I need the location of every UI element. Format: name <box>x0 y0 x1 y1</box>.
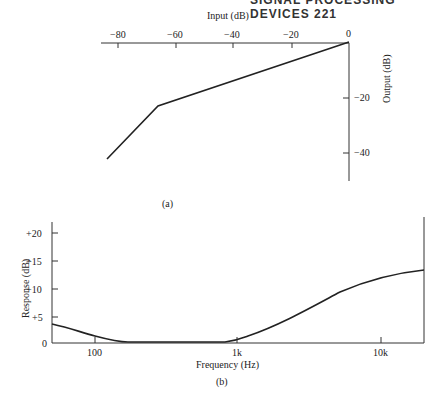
chart-a <box>101 42 349 181</box>
chart-a-curve <box>107 42 349 159</box>
chart-b-y-tick-label: 0 <box>42 338 47 349</box>
chart-b-x-tick-label: 1k <box>232 347 242 358</box>
chart-a-x-title: Input (dB) <box>207 10 249 21</box>
chart-b <box>52 217 424 343</box>
chart-b-curve <box>52 270 424 342</box>
chart-a-x-tick-label: −80 <box>110 29 126 40</box>
chart-b-x-tick-label: 10k <box>373 347 388 358</box>
chart-b-y-tick-label: +20 <box>26 228 42 239</box>
chart-b-x-tick-label: 100 <box>87 347 102 358</box>
chart-b-y-title: Response (dB) <box>20 259 31 318</box>
figures <box>0 0 438 394</box>
chart-a-x-tick-label: −20 <box>283 29 299 40</box>
chart-a-x-tick-label: −60 <box>167 29 183 40</box>
chart-b-y-ticks <box>52 233 58 317</box>
chart-a-y-tick-label: −20 <box>354 92 370 103</box>
chart-a-y-ticks <box>343 98 349 153</box>
chart-a-x-tick-label: 0 <box>346 28 351 39</box>
chart-a-x-tick-label: −40 <box>224 29 240 40</box>
chart-b-panel-label: (b) <box>216 376 228 387</box>
chart-a-x-ticks <box>118 43 292 48</box>
chart-a-y-title: Output (dB) <box>381 54 392 103</box>
chart-a-panel-label: (a) <box>162 198 173 209</box>
chart-b-y-tick-label: +5 <box>32 312 43 323</box>
chart-a-y-tick-label: −40 <box>354 147 370 158</box>
chart-b-x-title: Frequency (Hz) <box>196 359 259 370</box>
